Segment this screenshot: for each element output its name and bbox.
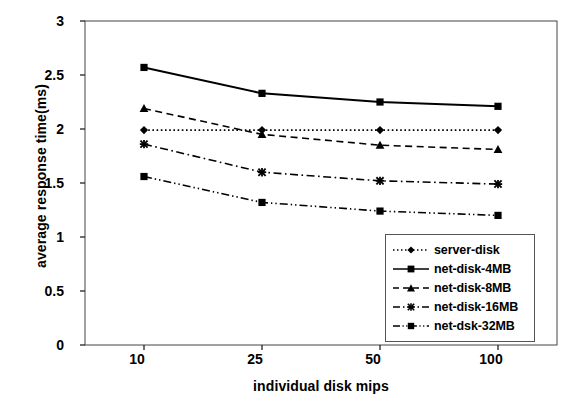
data-point-net-dsk-32MB-50 — [376, 207, 383, 214]
legend-label-net-disk-4mb: net-disk-4MB — [434, 262, 511, 276]
legend-label-net-disk-16mb: net-disk-16MB — [434, 300, 518, 314]
data-point-net-disk-4MB-25 — [258, 90, 265, 97]
series-line-net-disk-16MB — [144, 144, 498, 184]
chart-figure: average response time(ms) 0 0.5 1 1.5 2 … — [0, 0, 585, 411]
series-net-disk-8MB — [140, 104, 503, 153]
series-net-disk-4MB — [140, 64, 501, 110]
legend-item-net-disk-4mb: net-disk-4MB — [392, 259, 528, 278]
data-point-server-disk-10 — [140, 126, 148, 134]
data-point-net-disk-8MB-10 — [140, 104, 149, 112]
plot-area — [0, 0, 585, 411]
legend-swatch-net-disk-8mb — [392, 281, 430, 295]
legend: server-disk net-disk-4MB net-disk-8MB — [385, 234, 535, 342]
legend-swatch-server-disk — [392, 243, 430, 257]
series-line-net-disk-8MB — [144, 108, 498, 149]
legend-label-server-disk: server-disk — [434, 243, 500, 257]
data-point-net-dsk-32MB-10 — [140, 173, 147, 180]
legend-label-net-dsk-32mb: net-dsk-32MB — [434, 319, 515, 333]
series-net-disk-16MB — [140, 140, 502, 188]
legend-item-net-disk-16mb: net-disk-16MB — [392, 297, 528, 316]
legend-item-net-dsk-32mb: net-dsk-32MB — [392, 316, 528, 335]
data-point-net-disk-4MB-10 — [140, 64, 147, 71]
data-point-net-dsk-32MB-25 — [258, 199, 265, 206]
legend-swatch-net-disk-4mb — [392, 262, 430, 276]
data-point-server-disk-100 — [494, 126, 502, 134]
data-point-net-dsk-32MB-100 — [494, 212, 501, 219]
legend-item-net-disk-8mb: net-disk-8MB — [392, 278, 528, 297]
legend-swatch-net-disk-16mb — [392, 300, 430, 314]
series-server-disk — [140, 126, 502, 134]
legend-item-server-disk: server-disk — [392, 240, 528, 259]
series-line-net-disk-4MB — [144, 67, 498, 106]
legend-label-net-disk-8mb: net-disk-8MB — [434, 281, 511, 295]
data-point-net-disk-4MB-100 — [494, 103, 501, 110]
series-net-dsk-32MB — [140, 173, 501, 219]
data-point-server-disk-50 — [376, 126, 384, 134]
data-point-net-disk-8MB-100 — [494, 145, 503, 153]
legend-swatch-net-dsk-32mb — [392, 319, 430, 333]
data-point-net-disk-4MB-50 — [376, 98, 383, 105]
